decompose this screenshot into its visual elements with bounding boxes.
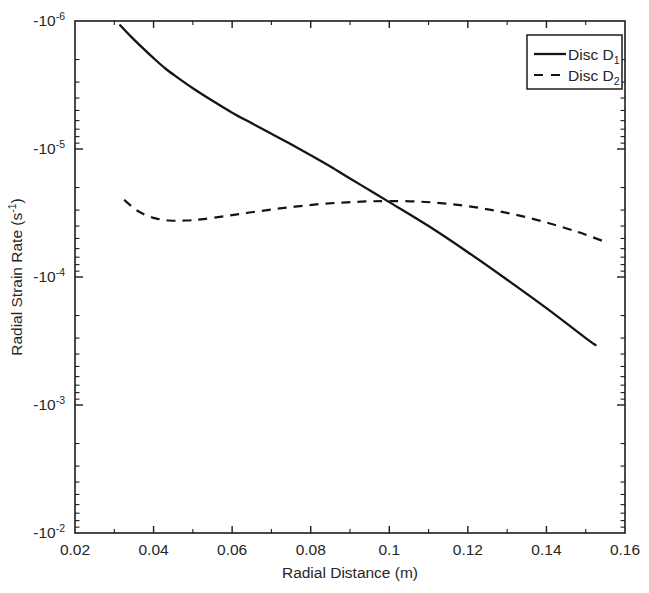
x-tick-label: 0.04 — [138, 541, 169, 558]
x-axis-title: Radial Distance (m) — [282, 564, 418, 581]
x-tick-label: 0.1 — [379, 541, 401, 558]
x-tick-label: 0.14 — [531, 541, 562, 558]
x-tick-label: 0.08 — [296, 541, 326, 558]
y-axis-title-tail: ) — [8, 198, 25, 203]
y-tick-label: -10-6 — [33, 10, 65, 29]
y-tick-label: -10-4 — [33, 266, 65, 285]
x-tick-label: 0.12 — [453, 541, 483, 558]
x-tick-label: 0.02 — [60, 541, 90, 558]
series-line-disc-d1 — [120, 25, 595, 345]
y-tick-label: -10-5 — [33, 138, 65, 157]
legend[interactable]: Disc D1 Disc D2 — [527, 35, 622, 89]
x-axis-ticks — [114, 21, 585, 533]
svg-text:Radial Strain Rate (s-1): Radial Strain Rate (s-1) — [6, 198, 25, 356]
y-axis-ticks — [75, 60, 625, 528]
figure-container: 0.020.040.060.080.10.120.140.16 -10-6-10… — [0, 0, 649, 593]
plot-frame — [75, 21, 625, 533]
series-line-disc-d2 — [124, 200, 603, 241]
y-axis-tick-labels: -10-6-10-5-10-4-10-3-10-2 — [33, 10, 65, 541]
y-tick-label: -10-3 — [33, 394, 65, 413]
y-axis-title: Radial Strain Rate (s-1) — [6, 198, 25, 356]
x-tick-label: 0.06 — [217, 541, 247, 558]
x-tick-label: 0.16 — [610, 541, 640, 558]
y-axis-title-base: Radial Strain Rate (s — [8, 213, 25, 356]
x-axis-tick-labels: 0.020.040.060.080.10.120.140.16 — [60, 541, 640, 558]
y-tick-label: -10-2 — [33, 522, 65, 541]
chart-canvas: 0.020.040.060.080.10.120.140.16 -10-6-10… — [0, 0, 649, 593]
y-axis-title-exponent: -1 — [6, 203, 18, 212]
